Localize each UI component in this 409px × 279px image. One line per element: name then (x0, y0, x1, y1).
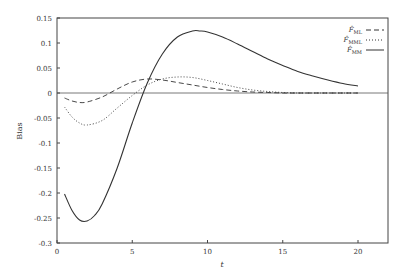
y-tick-label: 0.1 (41, 40, 52, 48)
legend: F̂MLF̂MMLF̂MM (343, 25, 384, 55)
legend-label: F̂MML (343, 35, 363, 45)
y-tick-label: -0.15 (34, 165, 52, 173)
y-tick-label: 0.15 (36, 15, 52, 23)
series-line-ml (65, 79, 358, 103)
y-tick-label: -0.25 (34, 215, 52, 223)
y-tick-label: -0.05 (34, 115, 52, 123)
y-tick-label: -0.1 (39, 140, 53, 148)
series-line-mm (65, 31, 358, 222)
y-axis-label: Bias (15, 122, 24, 139)
y-tick-label: -0.2 (39, 190, 53, 198)
x-tick-label: 15 (278, 248, 287, 256)
y-tick-label: 0.05 (36, 65, 52, 73)
series-line-mml (65, 77, 358, 125)
y-tick-label: 0 (48, 90, 52, 98)
x-axis-label: t (220, 260, 224, 269)
plot-area: 0.150.10.050-0.05-0.1-0.15-0.2-0.25-0.30… (34, 15, 388, 257)
legend-label: F̂MM (346, 45, 362, 55)
plot-frame (57, 18, 388, 243)
legend-label: F̂ML (348, 25, 363, 35)
series-group (65, 31, 358, 222)
x-tick-label: 0 (55, 248, 59, 256)
bias-line-chart: 0.150.10.050-0.05-0.1-0.15-0.2-0.25-0.30… (0, 0, 409, 279)
y-tick-label: -0.3 (39, 240, 53, 248)
x-tick-label: 5 (130, 248, 134, 256)
x-tick-label: 10 (203, 248, 212, 256)
x-tick-label: 20 (354, 248, 363, 256)
